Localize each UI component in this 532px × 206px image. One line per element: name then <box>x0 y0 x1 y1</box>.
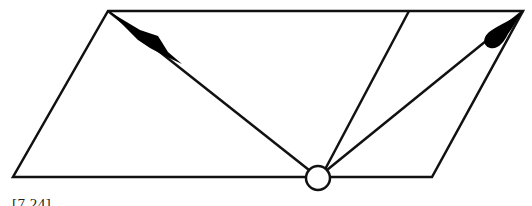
left-spindle-marker <box>110 12 182 64</box>
right-teardrop-marker <box>484 12 522 48</box>
parallelogram-diagram <box>0 0 532 206</box>
parallelogram-outline <box>13 11 523 177</box>
pivot-circle <box>306 166 330 190</box>
figure-caption: [7.24] <box>12 196 51 206</box>
divider-line <box>321 11 409 177</box>
